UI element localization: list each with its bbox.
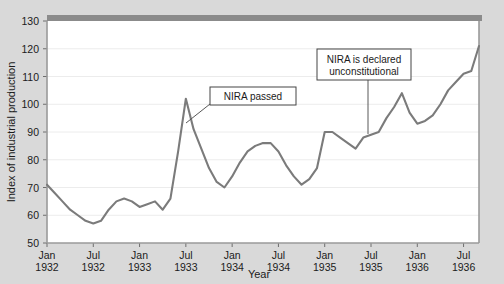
x-tick-label-year: 1935 — [359, 261, 383, 273]
x-tick-label-year: 1933 — [128, 261, 152, 273]
x-tick-label-month: Jul — [87, 249, 100, 261]
annotation-text: NIRA is declared — [327, 54, 401, 65]
x-tick-label-month: Jul — [179, 249, 192, 261]
y-tick-label: 70 — [27, 182, 39, 194]
chart-container: 5060708090100110120130 Jan1932Jul1932Jan… — [0, 0, 504, 284]
x-tick-label-year: 1935 — [313, 261, 337, 273]
x-tick-label-year: 1934 — [220, 261, 244, 273]
x-tick-label-month: Jul — [457, 249, 470, 261]
x-tick-label-month: Jan — [409, 249, 426, 261]
y-tick-label: 90 — [27, 126, 39, 138]
x-tick-label-year: 1936 — [452, 261, 476, 273]
annotation-text: NIRA passed — [224, 91, 282, 102]
y-tick-label: 100 — [21, 98, 39, 110]
x-tick-label-month: Jul — [364, 249, 377, 261]
y-tick-label: 50 — [27, 237, 39, 249]
industrial-production-line-chart: 5060708090100110120130 Jan1932Jul1932Jan… — [0, 0, 504, 284]
x-tick-label-year: 1932 — [82, 261, 106, 273]
x-tick-label-month: Jan — [224, 249, 241, 261]
y-tick-label: 130 — [21, 15, 39, 27]
y-tick-label: 80 — [27, 154, 39, 166]
x-axis-label: Year — [248, 268, 271, 280]
y-tick-label: 110 — [22, 71, 39, 83]
x-tick-label-month: Jul — [272, 249, 285, 261]
x-tick-label-year: 1932 — [35, 261, 59, 273]
annotation-text: unconstitutional — [329, 66, 399, 77]
x-tick-label-month: Jan — [316, 249, 333, 261]
x-tick-label-month: Jan — [131, 249, 148, 261]
x-tick-label-year: 1936 — [406, 261, 430, 273]
y-tick-label: 120 — [21, 43, 39, 55]
y-axis-label: Index of industrial production — [5, 62, 17, 203]
plot-top-band — [47, 15, 482, 21]
x-tick-label-year: 1934 — [267, 261, 291, 273]
y-tick-label: 60 — [27, 209, 39, 221]
x-tick-label-year: 1933 — [174, 261, 198, 273]
x-tick-label-month: Jan — [39, 249, 56, 261]
